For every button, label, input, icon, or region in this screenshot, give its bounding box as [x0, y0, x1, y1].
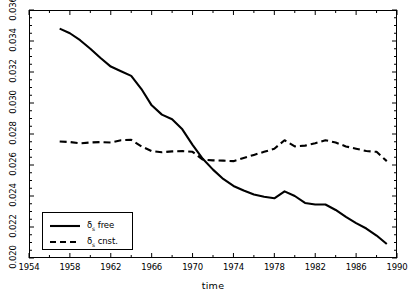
- x-axis-title: time: [183, 280, 243, 291]
- chart-figure: δs freeδs cnst. 0.0200.0220.0240.0260.02…: [0, 0, 417, 304]
- x-tick-label-1954: 1954: [16, 262, 42, 272]
- legend-label-1: δs cnst.: [87, 236, 118, 248]
- x-tick-label-1982: 1982: [302, 262, 328, 272]
- x-tick-label-1978: 1978: [261, 262, 287, 272]
- y-tick-label-0.036: 0.036: [8, 0, 18, 32]
- x-tick-label-1986: 1986: [343, 262, 369, 272]
- x-tick-label-1962: 1962: [98, 262, 124, 272]
- chart-legend: δs freeδs cnst.: [42, 212, 133, 250]
- x-tick-label-1970: 1970: [180, 262, 206, 272]
- x-tick-label-1966: 1966: [139, 262, 165, 272]
- x-tick-label-1990: 1990: [384, 262, 410, 272]
- plot-area: δs freeδs cnst.: [29, 10, 397, 258]
- legend-label-0: δs free: [87, 220, 114, 232]
- legend-item-1: δs cnst.: [50, 236, 118, 248]
- legend-item-0: δs free: [50, 220, 114, 232]
- x-tick-label-1974: 1974: [220, 262, 246, 272]
- legend-swatch-solid: [50, 222, 80, 230]
- x-tick-label-1958: 1958: [57, 262, 83, 272]
- legend-swatch-dashed: [50, 238, 80, 246]
